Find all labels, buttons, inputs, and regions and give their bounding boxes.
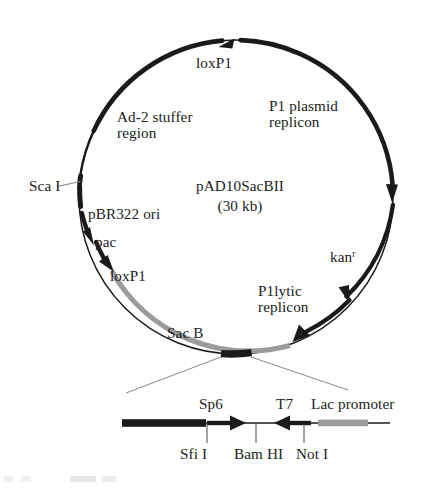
sca-i-gene-italic: Sca (29, 177, 51, 194)
label-p1-plasmid-replicon: P1 plasmid replicon (269, 98, 338, 131)
t7-arrowhead-icon (274, 416, 290, 431)
kan-resistance-superscript: r (352, 248, 355, 259)
label-lac-promoter: Lac promoter (311, 396, 394, 412)
sfi-numeral: I (198, 445, 207, 462)
bam-hi-numeral: HI (263, 445, 283, 462)
plasmid-size: (30 kb) (178, 198, 302, 214)
label-p1lytic-replicon: P1lytic replicon (258, 283, 309, 316)
label-bam-hi: Bam HI (234, 446, 283, 462)
expansion-leader-right (251, 357, 348, 390)
not-gene-italic: Not (296, 445, 319, 462)
lac-promoter-bar (318, 420, 368, 427)
not-numeral: I (319, 445, 328, 462)
label-sfi-i: Sfi I (180, 446, 207, 462)
label-kan-r: kanr (330, 249, 355, 265)
arc-upper-left-join (81, 131, 94, 174)
sp6-arrowhead-icon (230, 416, 246, 431)
label-loxp1-top: loxP1 (196, 55, 232, 71)
sfi-gene-italic: Sfi (180, 445, 198, 462)
linear-black-bar (122, 419, 206, 427)
label-sca-i: Sca I (29, 178, 60, 194)
label-ad2-stuffer-region: Ad-2 stuffer region (117, 109, 193, 142)
cloning-site-block (221, 353, 252, 354)
bam-gene-italic: Bam (234, 445, 263, 462)
kan-label-base: kan (330, 248, 352, 265)
plasmid-map-figure (0, 0, 444, 491)
expansion-leader-left (126, 357, 221, 393)
p1-plasmid-replicon-arrowhead (386, 184, 398, 203)
label-loxp1-left: loxP1 (110, 268, 146, 284)
label-t7: T7 (276, 396, 293, 412)
label-not-i: Not I (296, 446, 328, 462)
arc-loxp1-top (241, 40, 300, 54)
arc-pbr322-ori (80, 186, 81, 206)
label-pbr322-ori: pBR322 ori (88, 206, 160, 222)
arc-p1lytic-replicon (306, 300, 349, 332)
label-pac: pac (95, 234, 116, 250)
label-sp6: Sp6 (199, 396, 223, 412)
scan-artifact (4, 476, 116, 482)
sca-i-leader-line (57, 182, 81, 187)
label-sac-b: Sac B (167, 325, 203, 341)
sca-i-numeral: I (51, 177, 60, 194)
page-title: pAD10SacBII (178, 178, 302, 194)
